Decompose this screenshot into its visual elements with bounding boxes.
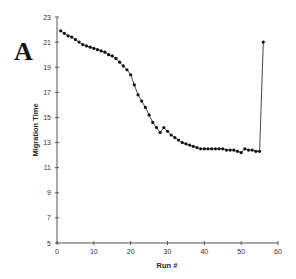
panel-label: A — [14, 37, 33, 66]
data-point — [258, 150, 261, 153]
data-point — [100, 49, 103, 52]
data-point — [103, 51, 106, 54]
series-line — [61, 31, 264, 153]
data-series — [59, 29, 265, 154]
x-tick-label: 40 — [200, 248, 208, 255]
x-tick-label: 60 — [274, 248, 282, 255]
data-point — [85, 44, 88, 47]
data-point — [173, 136, 176, 139]
data-point — [125, 68, 128, 71]
data-point — [214, 147, 217, 150]
data-point — [70, 35, 73, 38]
data-point — [129, 73, 132, 76]
x-tick-label: 0 — [55, 248, 59, 255]
data-point — [240, 151, 243, 154]
data-point — [122, 64, 125, 67]
data-point — [229, 148, 232, 151]
data-point — [63, 32, 66, 35]
data-point — [144, 106, 147, 109]
data-point — [74, 38, 77, 41]
y-tick-label: 17 — [43, 89, 51, 96]
data-point — [254, 150, 257, 153]
x-tick-label: 50 — [237, 248, 245, 255]
data-point — [92, 47, 95, 50]
data-point — [118, 61, 121, 64]
data-point — [162, 126, 165, 129]
data-point — [151, 121, 154, 124]
data-point — [236, 150, 239, 153]
data-point — [155, 126, 158, 129]
data-point — [111, 54, 114, 57]
data-point — [217, 147, 220, 150]
axes: 010203040506057911131517192123 — [43, 14, 282, 256]
y-tick-label: 13 — [43, 139, 51, 146]
y-tick-label: 9 — [47, 189, 51, 196]
data-point — [195, 146, 198, 149]
data-point — [133, 83, 136, 86]
x-tick-label: 20 — [127, 248, 135, 255]
data-point — [59, 29, 62, 32]
y-tick-label: 11 — [44, 164, 51, 171]
y-tick-label: 23 — [43, 14, 51, 21]
data-point — [251, 148, 254, 151]
data-point — [107, 53, 110, 56]
data-point — [96, 48, 99, 51]
data-point — [166, 130, 169, 133]
y-tick-label: 7 — [47, 214, 51, 221]
data-point — [210, 147, 213, 150]
svg-text:Migration Time: Migration Time — [31, 103, 40, 156]
x-tick-label: 10 — [90, 248, 98, 255]
data-point — [262, 41, 265, 44]
y-tick-label: 21 — [43, 39, 51, 46]
data-point — [192, 145, 195, 148]
data-point — [243, 147, 246, 150]
data-point — [188, 143, 191, 146]
data-point — [221, 147, 224, 150]
data-point — [206, 147, 209, 150]
data-point — [66, 34, 69, 37]
y-axis-label: Migration Time — [31, 103, 40, 156]
data-point — [159, 131, 162, 134]
data-point — [81, 43, 84, 46]
migration-time-chart: A 010203040506057911131517192123 Migrati… — [0, 0, 296, 279]
data-point — [225, 148, 228, 151]
data-point — [181, 141, 184, 144]
y-tick-label: 15 — [43, 114, 51, 121]
x-axis-label: Run # — [157, 261, 179, 270]
data-point — [170, 133, 173, 136]
data-point — [184, 142, 187, 145]
data-point — [140, 100, 143, 103]
data-point — [147, 113, 150, 116]
data-point — [199, 147, 202, 150]
data-point — [114, 57, 117, 60]
y-tick-label: 5 — [47, 240, 51, 247]
data-point — [203, 147, 206, 150]
data-point — [247, 148, 250, 151]
data-point — [232, 148, 235, 151]
x-tick-label: 30 — [164, 248, 172, 255]
data-point — [177, 138, 180, 141]
data-point — [78, 41, 81, 44]
data-point — [136, 93, 139, 96]
y-tick-label: 19 — [43, 64, 51, 71]
data-point — [89, 46, 92, 49]
